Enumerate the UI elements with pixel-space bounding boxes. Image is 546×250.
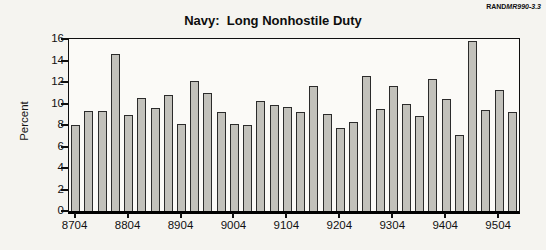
- bar-8710: [98, 111, 107, 211]
- x-axis-tick-label: 9504: [478, 219, 518, 231]
- bar-8807: [137, 98, 146, 211]
- bar-9507: [508, 112, 517, 211]
- bar-9101: [270, 105, 279, 211]
- bar-9307: [402, 104, 411, 212]
- x-axis-tick: [232, 213, 234, 218]
- bar-9204: [336, 128, 345, 211]
- report-figure-page: RANDMR990-3.3 Navy: Long Nonhostile Duty…: [0, 0, 546, 250]
- x-axis-tick-label: 9004: [213, 219, 253, 231]
- x-axis-tick-label: 9104: [266, 219, 306, 231]
- x-axis-tick: [497, 213, 499, 218]
- bar-8801: [111, 54, 120, 211]
- bar-8907: [190, 81, 199, 211]
- x-axis-tick: [180, 213, 182, 218]
- y-axis-tick: [61, 167, 69, 169]
- rand-document-label: RANDMR990-3.3: [486, 3, 541, 10]
- plot-area: [68, 38, 520, 214]
- y-axis-title: Percent: [18, 35, 30, 207]
- bar-9504: [495, 90, 504, 211]
- bar-9301: [376, 109, 385, 211]
- bar-9004: [230, 124, 239, 211]
- x-axis-tick-label: 9304: [372, 219, 412, 231]
- rand-doc-number: MR990-3.3: [506, 3, 541, 10]
- y-axis-tick: [61, 146, 69, 148]
- y-axis-tick: [61, 189, 69, 191]
- bar-9210: [362, 76, 371, 211]
- bar-9104: [283, 107, 292, 211]
- bar-9410: [468, 41, 477, 211]
- x-axis-tick-label: 8904: [161, 219, 201, 231]
- bar-9310: [415, 116, 424, 211]
- bar-9010: [256, 101, 265, 211]
- x-axis-tick: [285, 213, 287, 218]
- x-axis-tick-label: 9404: [425, 219, 465, 231]
- bar-8810: [151, 108, 160, 211]
- bar-8901: [164, 95, 173, 211]
- bar-8910: [203, 93, 212, 211]
- y-axis-tick: [61, 81, 69, 83]
- bar-9207: [349, 122, 358, 211]
- bar-8804: [124, 115, 133, 211]
- bar-9110: [309, 86, 318, 211]
- y-axis-tick: [61, 38, 69, 40]
- y-axis-tick: [61, 103, 69, 105]
- x-axis-tick: [444, 213, 446, 218]
- y-axis-tick: [61, 210, 69, 212]
- bar-8904: [177, 124, 186, 211]
- bar-9007: [243, 125, 252, 211]
- y-axis-tick: [61, 60, 69, 62]
- rand-brand-text: RAND: [486, 3, 506, 10]
- bar-8704: [71, 125, 80, 211]
- x-axis-tick-label: 8704: [55, 219, 95, 231]
- x-axis-tick: [338, 213, 340, 218]
- x-axis-tick-label: 9204: [319, 219, 359, 231]
- bar-9107: [296, 112, 305, 211]
- bar-9201: [323, 114, 332, 211]
- bar-8707: [84, 111, 93, 211]
- x-axis-tick-label: 8804: [108, 219, 148, 231]
- bar-9404: [442, 99, 451, 211]
- bar-9401: [428, 79, 437, 211]
- bar-9304: [389, 86, 398, 211]
- x-axis-tick: [127, 213, 129, 218]
- x-axis-tick: [74, 213, 76, 218]
- bar-9001: [217, 112, 226, 211]
- x-axis-tick: [391, 213, 393, 218]
- bar-9501: [481, 110, 490, 211]
- chart-title: Navy: Long Nonhostile Duty: [0, 13, 546, 28]
- y-axis-tick: [61, 124, 69, 126]
- bar-9407: [455, 135, 464, 211]
